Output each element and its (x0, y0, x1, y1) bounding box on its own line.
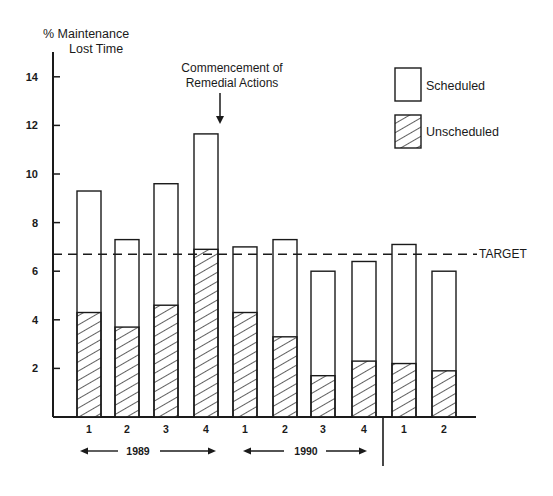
year-group-1990: 1990 (243, 445, 367, 457)
x-tick-label: 1 (86, 423, 92, 435)
bar-segment-unscheduled (77, 313, 101, 417)
bar-1991-q2 (432, 271, 456, 417)
annotation-line-2: Remedial Actions (186, 76, 279, 90)
bar-segment-unscheduled (115, 327, 139, 417)
bar-1989-q2 (115, 240, 139, 417)
bar-1991-q1 (392, 244, 416, 417)
bar-segment-unscheduled (432, 371, 456, 417)
x-tick-label: 2 (282, 423, 288, 435)
arrow-left-icon (80, 448, 88, 455)
bar-segment-unscheduled (194, 249, 218, 417)
bar-1990-q4 (352, 261, 376, 417)
year-group-1989: 1989 (80, 445, 216, 457)
x-axis-tick-labels: 1234123412 (86, 423, 447, 435)
y-axis-ticks: 2468101214 (26, 71, 60, 375)
bar-1990-q2 (273, 240, 297, 417)
bar-1989-q4 (194, 134, 218, 417)
bar-1989-q3 (154, 184, 178, 417)
bar-segment-unscheduled (311, 376, 335, 417)
x-tick-label: 1 (401, 423, 407, 435)
legend-swatch-scheduled (395, 68, 421, 101)
arrow-right-icon (359, 448, 367, 455)
bar-1990-q1 (233, 247, 257, 417)
bar-segment-unscheduled (273, 337, 297, 417)
y-tick-label: 4 (32, 314, 39, 326)
x-tick-label: 4 (203, 423, 209, 435)
y-axis-title-line-1: % Maintenance (43, 27, 129, 41)
bar-segment-unscheduled (392, 364, 416, 417)
y-tick-label: 8 (32, 217, 38, 229)
x-tick-label: 2 (441, 423, 447, 435)
x-tick-label: 2 (124, 423, 130, 435)
y-tick-label: 14 (26, 71, 39, 83)
target-label: TARGET (479, 247, 527, 261)
y-tick-label: 6 (32, 265, 38, 277)
y-axis-title-line-2: Lost Time (69, 42, 123, 56)
legend-swatch-unscheduled (395, 115, 421, 148)
annotation-arrow-icon (216, 93, 224, 124)
annotation-line-1: Commencement of (181, 61, 283, 75)
bar-segment-unscheduled (233, 313, 257, 417)
arrow-right-icon (208, 448, 216, 455)
x-tick-label: 4 (361, 423, 367, 435)
x-tick-label: 3 (163, 423, 169, 435)
bar-1990-q3 (311, 271, 335, 417)
y-tick-label: 2 (32, 362, 38, 374)
maintenance-lost-time-chart: % Maintenance Lost Time 2468101214 TARGE… (0, 0, 553, 496)
x-tick-label: 3 (320, 423, 326, 435)
legend-label-unscheduled: Unscheduled (426, 125, 499, 139)
bar-1989-q1 (77, 191, 101, 417)
y-tick-label: 10 (26, 168, 38, 180)
bars (77, 134, 456, 417)
bar-segment-unscheduled (352, 361, 376, 417)
legend: Scheduled Unscheduled (395, 68, 499, 148)
year-label-1989: 1989 (126, 445, 150, 457)
y-tick-label: 12 (26, 119, 38, 131)
arrow-left-icon (243, 448, 251, 455)
bar-segment-unscheduled (154, 305, 178, 417)
year-label-1990: 1990 (294, 445, 318, 457)
legend-label-scheduled: Scheduled (426, 79, 485, 93)
x-tick-label: 1 (242, 423, 248, 435)
